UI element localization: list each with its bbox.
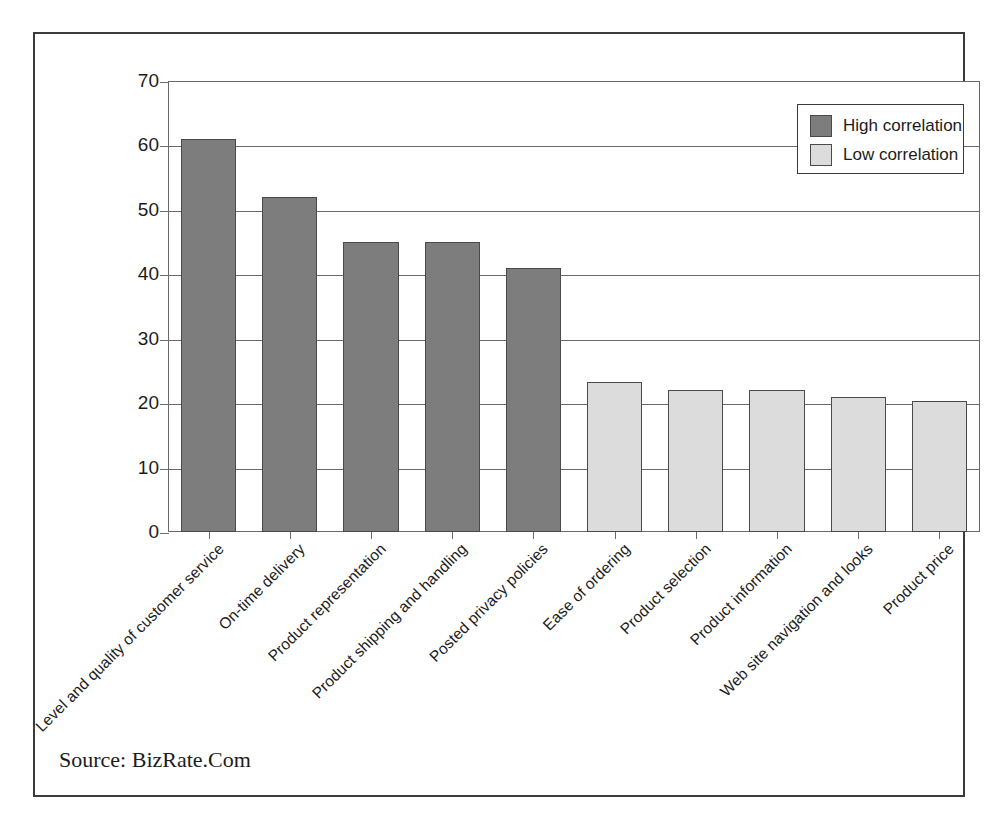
x-tick-label-text: Level and quality of customer service	[32, 540, 228, 736]
y-tick-label: 10	[138, 457, 159, 479]
source-note: Source: BizRate.Com	[59, 747, 251, 773]
y-tick-label: 30	[138, 328, 159, 350]
y-tick-label: 60	[138, 134, 159, 156]
legend-label-low: Low correlation	[843, 145, 958, 165]
legend-swatch-high-icon	[810, 115, 832, 137]
bar	[181, 139, 236, 532]
y-tick-label: 50	[138, 199, 159, 221]
x-axis-labels: Level and quality of customer serviceOn-…	[168, 532, 980, 772]
bar	[749, 390, 804, 532]
y-tick-label: 40	[138, 263, 159, 285]
bar	[668, 390, 723, 532]
y-tick-label: 0	[148, 521, 159, 543]
x-tick-label-text: Product price	[880, 540, 958, 618]
legend-entry-low: Low correlation	[810, 140, 963, 169]
y-axis: 010203040506070	[123, 81, 159, 532]
legend-entry-high: High correlation	[810, 111, 963, 140]
x-tick-label-text: Product shipping and handling	[309, 540, 471, 702]
y-tick-label: 70	[138, 70, 159, 92]
legend-swatch-low-icon	[810, 144, 832, 166]
figure-container: 010203040506070 Level and quality of cus…	[0, 0, 998, 832]
y-tick-label: 20	[138, 392, 159, 414]
figure-outer-frame: 010203040506070 Level and quality of cus…	[33, 32, 965, 797]
chart-legend: High correlation Low correlation	[797, 104, 964, 174]
x-tick-label-text: On-time delivery	[215, 540, 309, 634]
x-tick-label-text: Ease of ordering	[539, 540, 633, 634]
legend-label-high: High correlation	[843, 116, 962, 136]
x-tick-label-text: Web site navigation and looks	[717, 540, 877, 700]
